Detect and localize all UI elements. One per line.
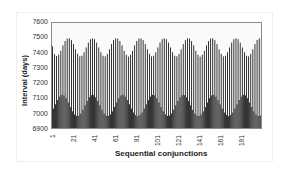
x-tick-label: 161 — [217, 135, 224, 146]
x-tick-label: 141 — [196, 135, 203, 146]
x-tick-label: 41 — [91, 135, 98, 142]
y-tick-label: 7600 — [18, 18, 48, 26]
x-tick-label: 121 — [175, 135, 182, 146]
y-tick-label: 6900 — [18, 125, 48, 133]
x-tick-label: 81 — [133, 135, 140, 142]
x-tick-label: 181 — [238, 135, 245, 146]
bar-series — [52, 23, 262, 129]
y-axis-label: Interval (days) — [20, 41, 29, 121]
x-tick-label: 61 — [112, 135, 119, 142]
x-axis-label: Sequential conjunctions — [115, 149, 207, 158]
x-tick-label: 1 — [49, 134, 56, 138]
x-tick-label: 101 — [154, 135, 161, 146]
plot-area — [51, 22, 262, 129]
x-tick-label: 21 — [70, 135, 77, 142]
